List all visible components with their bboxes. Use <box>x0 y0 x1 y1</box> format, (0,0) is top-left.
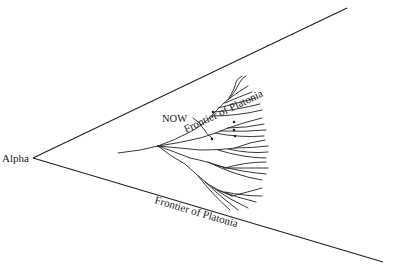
lower-frontier-label: Frontier of Platonia <box>153 193 239 229</box>
upper-frontier-line <box>33 8 347 158</box>
alpha-label: Alpha <box>2 152 29 164</box>
now-label: NOW <box>162 113 187 124</box>
platonia-diagram: Alpha Frontier of Platonia Frontier of P… <box>0 0 406 273</box>
